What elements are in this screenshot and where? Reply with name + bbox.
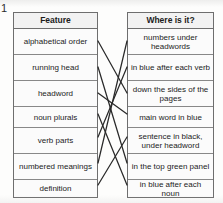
match-line[interactable]	[98, 93, 127, 114]
location-table-header: Where is it?	[128, 13, 213, 29]
location-cell-numbers-under-headwords[interactable]: numbers under headwords	[128, 29, 213, 55]
location-cell-main-word-in-blue[interactable]: main word in blue	[128, 107, 213, 128]
match-line[interactable]	[98, 137, 127, 185]
feature-cell-noun-plurals[interactable]: noun plurals	[14, 107, 97, 128]
location-cell-sentence-in-black-under-headword[interactable]: sentence in black, under headword	[128, 128, 213, 154]
feature-table-header: Feature	[14, 13, 97, 29]
match-line[interactable]	[98, 114, 127, 185]
location-cell-in-the-top-green-panel[interactable]: in the top green panel	[128, 154, 213, 180]
worksheet-page: 1 Feature alphabetical order running hea…	[0, 0, 223, 203]
match-line[interactable]	[98, 41, 127, 93]
location-cell-down-the-sides-of-the-pages[interactable]: down the sides of the pages	[128, 81, 213, 107]
location-cell-in-blue-after-each-noun[interactable]: in blue after each noun	[128, 180, 213, 197]
feature-cell-numbered-meanings[interactable]: numbered meanings	[14, 154, 97, 180]
match-line[interactable]	[98, 67, 127, 137]
location-cell-in-blue-after-each-verb[interactable]: in blue after each verb	[128, 55, 213, 81]
match-line[interactable]	[98, 67, 127, 163]
feature-cell-definition[interactable]: definition	[14, 180, 97, 197]
feature-cell-alphabetical-order[interactable]: alphabetical order	[14, 29, 97, 55]
feature-cell-verb-parts[interactable]: verb parts	[14, 128, 97, 154]
match-line[interactable]	[98, 41, 127, 163]
location-table: Where is it? numbers under headwords in …	[127, 12, 214, 198]
feature-table: Feature alphabetical order running head …	[13, 12, 98, 198]
feature-cell-running-head[interactable]: running head	[14, 55, 97, 81]
exercise-number: 1	[1, 2, 7, 14]
feature-cell-headword[interactable]: headword	[14, 81, 97, 107]
